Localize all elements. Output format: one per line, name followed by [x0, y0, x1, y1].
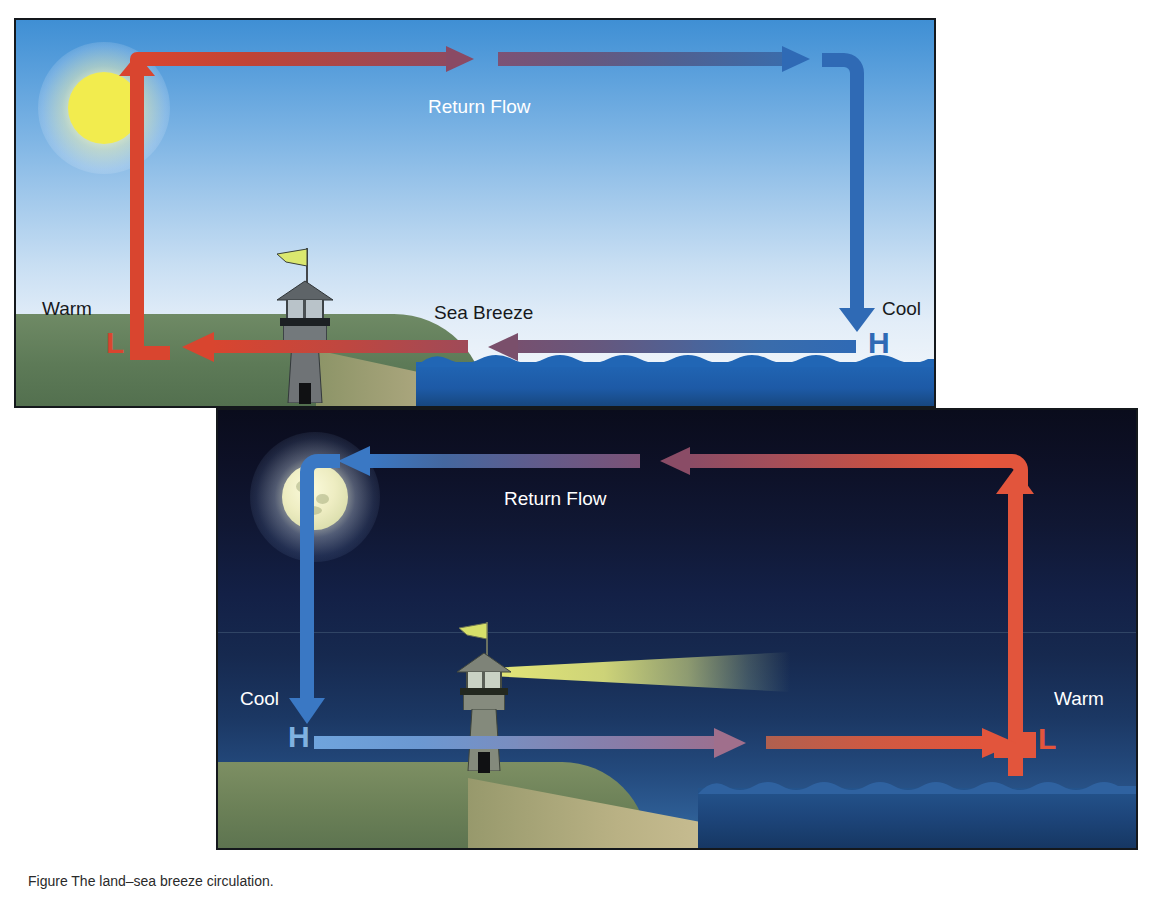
day-sea-breeze-bar-blue [688, 340, 856, 353]
lighthouse-roof [456, 652, 512, 674]
day-descender-corner [822, 50, 868, 96]
flag-icon [276, 248, 310, 270]
day-return-flow-label: Return Flow [428, 96, 530, 118]
day-sea-breeze-bar-red [212, 340, 468, 353]
night-return-flow-label: Return Flow [504, 488, 606, 510]
day-return-flow-bar-2 [498, 52, 788, 66]
day-lighthouse [268, 248, 340, 408]
night-return-flow-arrowhead-1 [660, 447, 690, 475]
day-return-flow-arrowhead-1 [446, 46, 474, 72]
night-high-pressure-label: H [288, 720, 310, 754]
night-descender-shaft [300, 490, 314, 702]
night-descender-corner [294, 450, 340, 494]
figure-caption: Figure The land–sea breeze circulation. [28, 872, 1128, 896]
night-bottom-right-corner [994, 732, 1038, 758]
night-land-breeze-bar-red [766, 736, 988, 749]
night-warm-label: Warm [1054, 688, 1104, 710]
night-land-breeze-arrowhead-mid [714, 728, 746, 758]
night-ocean [698, 788, 1138, 848]
day-sea-breeze-bar-purple [516, 340, 692, 353]
day-panel: Return Flow Sea Breeze Warm Cool L H [14, 18, 936, 408]
night-return-flow-bar-2 [368, 454, 640, 468]
flag-icon [458, 622, 490, 642]
day-sea-breeze-label: Sea Breeze [434, 302, 533, 324]
day-warm-label: Warm [42, 298, 92, 320]
day-cool-label: Cool [882, 298, 921, 320]
lighthouse-roof [276, 280, 334, 302]
day-descender-shaft [850, 92, 864, 312]
night-land-breeze-bar-purple [518, 736, 718, 749]
day-sea-breeze-arrowhead-left [182, 332, 214, 362]
night-return-flow-arrowhead-2 [338, 446, 370, 476]
night-horizon-line [218, 632, 1136, 633]
night-cool-label: Cool [240, 688, 279, 710]
day-ocean [416, 362, 936, 406]
day-bottom-left-corner [128, 336, 170, 360]
day-low-pressure-label: L [106, 326, 124, 360]
day-high-pressure-label: H [868, 326, 890, 360]
night-land-breeze-bar-blue [314, 736, 524, 749]
night-panel: Return Flow Cool Warm H L [216, 408, 1138, 850]
day-sea-breeze-arrowhead-mid [488, 333, 518, 361]
night-return-flow-bar-1 [688, 454, 978, 468]
figure-root: Return Flow Sea Breeze Warm Cool L H [0, 0, 1151, 899]
gallery-deck [280, 318, 330, 326]
day-return-flow-arrowhead-2 [782, 46, 810, 72]
lighthouse-door [478, 752, 490, 773]
night-low-pressure-label: L [1038, 722, 1056, 756]
day-return-flow-bar-1 [144, 52, 454, 66]
night-ocean-waves [698, 778, 1138, 794]
night-top-right-corner [970, 452, 1030, 486]
lantern-mullion [303, 300, 306, 320]
lighthouse-door [299, 383, 311, 404]
gallery-base [463, 695, 505, 710]
gallery-deck [460, 688, 508, 695]
day-riser-shaft [130, 70, 144, 350]
night-lighthouse [448, 622, 520, 782]
